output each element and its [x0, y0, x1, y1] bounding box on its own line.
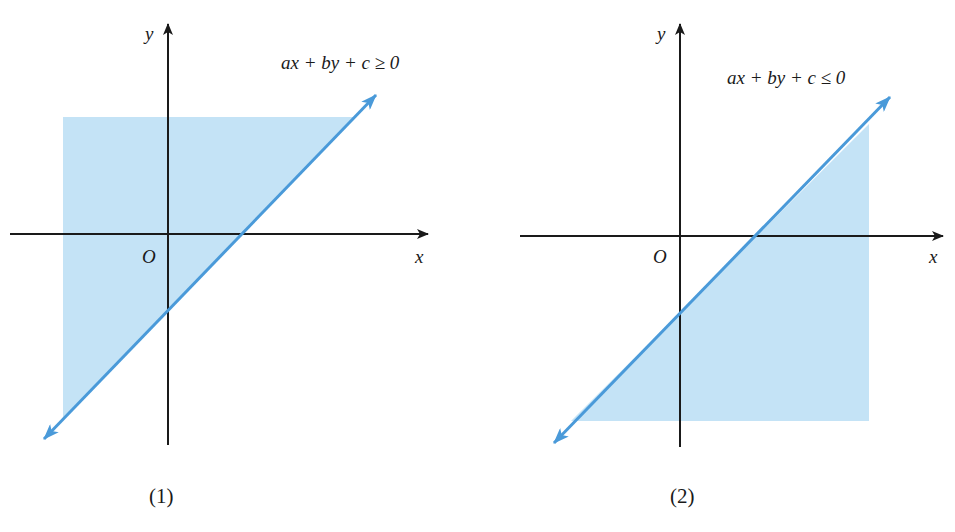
x-axis-label: x — [928, 246, 938, 267]
panel-caption-2: (2) — [670, 484, 695, 508]
figure-canvas: y x O ax + by + c ≥ 0 (1) y x O ax + by … — [0, 0, 955, 532]
inequality-label-le: ax + by + c ≤ 0 — [727, 67, 846, 88]
y-axis-label: y — [143, 23, 154, 44]
inequality-label-ge: ax + by + c ≥ 0 — [281, 52, 400, 73]
y-axis-label: y — [655, 23, 666, 44]
origin-label: O — [142, 246, 156, 267]
panel-2: y x O ax + by + c ≤ 0 (2) — [520, 23, 943, 508]
panel-1: y x O ax + by + c ≥ 0 (1) — [10, 23, 428, 508]
x-axis-label: x — [414, 246, 424, 267]
panel-caption-1: (1) — [149, 484, 174, 508]
origin-label: O — [653, 246, 667, 267]
